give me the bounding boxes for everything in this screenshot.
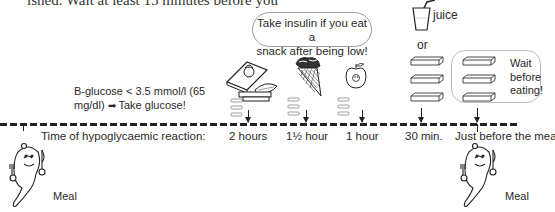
top-paragraph-fragment: ished. Wait at least 15 minutes before y…: [27, 0, 278, 9]
time-label-1h: 1 hour: [346, 130, 379, 142]
meal-label-right: Meal: [505, 190, 529, 202]
time-label-1-5h: 1½ hour: [286, 130, 328, 142]
apple-icon: [345, 62, 367, 90]
insulin-bubble-line-1: Take insulin if you eat a: [253, 16, 371, 44]
arrow-down-before-meal-icon: [477, 108, 478, 122]
wait-line-2: before: [510, 71, 543, 85]
juice-label: juice: [433, 8, 458, 22]
wait-line-1: Wait: [510, 57, 543, 71]
meal-label-left: Meal: [53, 190, 77, 202]
meal-character-right-icon: [455, 142, 503, 210]
timeline-start-tick: [23, 124, 24, 131]
timeline-label: Time of hypoglycaemic reaction:: [41, 130, 205, 142]
glucose-note-line-1: B-glucose < 3.5 mmol/l (65: [74, 84, 205, 98]
wait-before-eating-text: Wait before eating!: [510, 57, 543, 98]
glucose-tablets-stack: [410, 56, 444, 106]
right-arrow-icon: ➡: [108, 100, 116, 111]
time-label-2h: 2 hours: [229, 130, 267, 142]
time-label-before-meal: Just before the meal: [455, 130, 555, 142]
wait-line-3: eating!: [510, 84, 543, 98]
juice-glass-icon: [411, 0, 435, 32]
sandwich-icon: [225, 54, 280, 104]
timeline-dashed-line: [0, 123, 520, 126]
insulin-speech-bubble: Take insulin if you eat a snack after be…: [252, 12, 372, 47]
glucose-note-unit: mg/dl): [74, 99, 105, 111]
arrow-down-30min-icon: [421, 108, 422, 122]
small-tablets-1-5h: [287, 97, 301, 119]
small-tablets-1h: [337, 97, 351, 119]
glucose-threshold-note: B-glucose < 3.5 mmol/l (65 mg/dl) ➡ Take…: [74, 84, 205, 113]
arrow-down-2h-icon: [248, 110, 249, 122]
time-label-30min: 30 min.: [405, 130, 443, 142]
take-glucose-text: Take glucose!: [118, 99, 185, 111]
ice-cream-cone-icon: [293, 56, 325, 98]
or-label: or: [417, 38, 428, 52]
arrow-down-1-5h-icon: [306, 110, 307, 122]
arrow-down-1h-icon: [362, 110, 363, 122]
small-tablets-2h: [230, 98, 244, 120]
meal-character-left-icon: [4, 142, 52, 210]
glucose-tablets-stack-wait: [462, 56, 496, 106]
